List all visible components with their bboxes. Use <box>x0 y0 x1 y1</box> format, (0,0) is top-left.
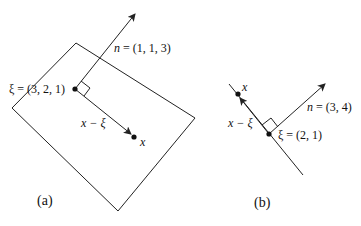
xi-point <box>72 86 77 91</box>
caption-a: (a) <box>37 193 53 209</box>
difference-label: x − ξ <box>227 116 253 130</box>
xi-point <box>266 131 271 136</box>
x-point <box>235 91 240 96</box>
x-label: x <box>241 80 248 94</box>
difference-label: x − ξ <box>80 116 106 130</box>
x-label: x <box>139 135 146 149</box>
normal-label: n = (3, 4) <box>307 100 352 114</box>
figure-b: n = (3, 4) ξ = (2, 1) x − ξ x (b) <box>227 80 352 211</box>
caption-b: (b) <box>254 195 271 211</box>
x-point <box>131 134 136 139</box>
xi-label: ξ = (2, 1) <box>278 128 322 142</box>
right-angle-marker <box>262 118 278 127</box>
right-angle-marker <box>81 81 90 96</box>
diagram-canvas: n = (1, 1, 3) ξ = (3, 2, 1) x − ξ x (a) … <box>0 0 361 226</box>
normal-label: n = (1, 1, 3) <box>114 41 171 55</box>
figure-a: n = (1, 1, 3) ξ = (3, 2, 1) x − ξ x (a) <box>9 14 195 211</box>
xi-label: ξ = (3, 2, 1) <box>9 82 65 96</box>
